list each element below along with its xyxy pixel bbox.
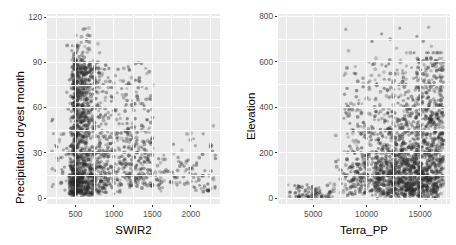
gridline-minor xyxy=(47,39,220,40)
y-tick-mark xyxy=(44,17,46,18)
y-tick-label: 90 xyxy=(17,57,42,67)
gridline-major xyxy=(278,61,450,62)
x-tick-label: 500 xyxy=(69,209,83,219)
x-tick-label: 1000 xyxy=(105,209,123,219)
gridline-minor xyxy=(278,175,450,176)
x-tick-mark xyxy=(152,205,153,207)
y-tick-label: 600 xyxy=(248,57,273,67)
gridline-major xyxy=(47,107,220,108)
gridline-minor xyxy=(47,175,220,176)
gridline-minor xyxy=(286,14,287,204)
y-axis-title-precipitation: Precipitation dryest month xyxy=(14,71,26,204)
gridline-major xyxy=(278,107,450,108)
gridline-minor xyxy=(133,14,134,204)
gridline-minor xyxy=(393,14,394,204)
x-tick-mark xyxy=(313,205,314,207)
y-axis-title-elevation: Elevation xyxy=(245,93,257,140)
gridline-minor xyxy=(278,130,450,131)
gridline-major xyxy=(47,197,220,198)
gridline-major xyxy=(278,198,450,199)
x-tick-label: 15000 xyxy=(409,209,432,219)
gridline-major xyxy=(47,62,220,63)
x-tick-mark xyxy=(366,205,367,207)
gridline-minor xyxy=(47,130,220,131)
x-tick-label: 1500 xyxy=(143,209,161,219)
y-tick-label: 0 xyxy=(248,193,273,203)
y-tick-label: 120 xyxy=(17,12,42,22)
x-tick-mark xyxy=(420,205,421,207)
gridline-minor xyxy=(446,14,447,204)
gridline-major xyxy=(47,16,220,17)
y-tick-mark xyxy=(275,107,277,108)
y-tick-mark xyxy=(44,62,46,63)
x-tick-mark xyxy=(113,205,114,207)
y-tick-mark xyxy=(44,198,46,199)
gridline-minor xyxy=(56,14,57,204)
panel-swir2-precipitation: 0306090120500100015002000 SWIR2 Precipit… xyxy=(0,0,228,245)
plot-area-terrapp xyxy=(278,14,450,204)
plot-area-swir2 xyxy=(47,14,220,204)
y-tick-mark xyxy=(44,152,46,153)
x-tick-mark xyxy=(190,205,191,207)
y-tick-label: 200 xyxy=(248,148,273,158)
gridline-major xyxy=(278,16,450,17)
gridline-minor xyxy=(278,84,450,85)
x-tick-label: 2000 xyxy=(182,209,200,219)
gridline-minor xyxy=(94,14,95,204)
y-tick-mark xyxy=(275,61,277,62)
x-axis-title-swir2: SWIR2 xyxy=(47,224,220,236)
gridline-minor xyxy=(171,14,172,204)
x-tick-label: 10000 xyxy=(355,209,378,219)
panel-terrapp-elevation: 020040060080050001000015000 Terra_PP Ele… xyxy=(228,0,456,245)
scatter-plot-figure: 0306090120500100015002000 SWIR2 Precipit… xyxy=(0,0,456,245)
x-tick-mark xyxy=(75,205,76,207)
gridline-minor xyxy=(278,39,450,40)
y-tick-mark xyxy=(44,107,46,108)
gridline-major xyxy=(278,152,450,153)
gridline-minor xyxy=(210,14,211,204)
x-tick-label: 5000 xyxy=(304,209,322,219)
x-axis-title-terrapp: Terra_PP xyxy=(278,224,450,236)
y-tick-mark xyxy=(275,16,277,17)
y-tick-label: 800 xyxy=(248,11,273,21)
gridline-major xyxy=(47,152,220,153)
y-tick-mark xyxy=(275,198,277,199)
gridline-minor xyxy=(47,85,220,86)
gridline-minor xyxy=(340,14,341,204)
y-tick-mark xyxy=(275,152,277,153)
